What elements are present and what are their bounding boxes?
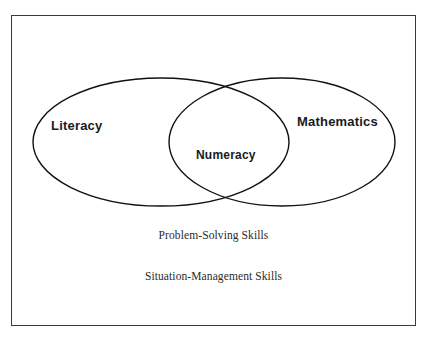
venn-shapes <box>0 0 427 342</box>
caption-situation-management-skills: Situation-Management Skills <box>0 270 427 282</box>
set-label-mathematics: Mathematics <box>297 114 378 129</box>
ellipse-literacy <box>33 78 289 206</box>
venn-diagram-figure: Literacy Mathematics Numeracy Problem-So… <box>0 0 427 342</box>
caption-problem-solving-skills: Problem-Solving Skills <box>0 229 427 241</box>
set-label-literacy: Literacy <box>51 118 102 133</box>
intersection-label-numeracy: Numeracy <box>196 148 256 162</box>
ellipse-mathematics <box>169 78 395 206</box>
